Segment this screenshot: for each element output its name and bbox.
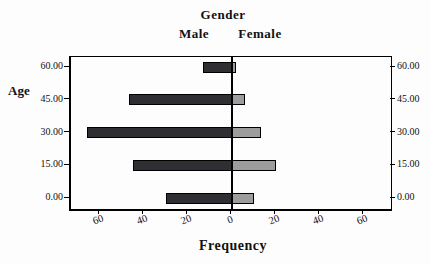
y-tick-label-left: 60.00 bbox=[23, 60, 63, 72]
chart-title: Gender bbox=[173, 7, 273, 23]
x-tick-label: 0 bbox=[216, 210, 244, 229]
y-tickmark-right bbox=[390, 131, 395, 132]
y-tickmark-right bbox=[390, 66, 395, 67]
male-bar bbox=[203, 62, 232, 73]
female-bar bbox=[232, 94, 245, 105]
y-tick-label-right: 0.00 bbox=[397, 191, 415, 203]
y-tickmark-left bbox=[64, 98, 69, 99]
y-tick-label-left: 0.00 bbox=[23, 191, 63, 203]
y-tick-label-right: 15.00 bbox=[397, 158, 420, 170]
x-tick-label: 20 bbox=[260, 210, 288, 229]
population-pyramid-chart: Gender Male Female Age Frequency 0.000.0… bbox=[0, 0, 430, 264]
y-tickmark-left bbox=[64, 131, 69, 132]
female-bar bbox=[232, 193, 254, 204]
x-tick-label: 60 bbox=[84, 210, 112, 229]
y-tickmark-left bbox=[64, 197, 69, 198]
plot-area bbox=[69, 56, 392, 211]
female-series-label: Female bbox=[220, 26, 300, 42]
y-tickmark-right bbox=[390, 98, 395, 99]
female-bar bbox=[232, 160, 276, 171]
y-tickmark-left bbox=[64, 66, 69, 67]
y-tick-label-left: 15.00 bbox=[23, 158, 63, 170]
y-tickmark-right bbox=[390, 197, 395, 198]
y-tick-label-right: 45.00 bbox=[397, 93, 420, 105]
x-axis-title: Frequency bbox=[163, 238, 303, 254]
center-baseline bbox=[231, 57, 233, 209]
male-bar bbox=[166, 193, 232, 204]
male-bar bbox=[87, 127, 232, 138]
y-tick-label-right: 60.00 bbox=[397, 60, 420, 72]
y-tick-label-left: 30.00 bbox=[23, 126, 63, 138]
male-bar bbox=[129, 94, 232, 105]
y-tickmark-left bbox=[64, 164, 69, 165]
female-bar bbox=[232, 127, 261, 138]
x-tick-label: 20 bbox=[172, 210, 200, 229]
male-bar bbox=[133, 160, 232, 171]
y-tick-label-left: 45.00 bbox=[23, 93, 63, 105]
y-tickmark-right bbox=[390, 164, 395, 165]
x-tick-label: 40 bbox=[304, 210, 332, 229]
x-tick-label: 60 bbox=[348, 210, 376, 229]
x-tick-label: 40 bbox=[128, 210, 156, 229]
y-tick-label-right: 30.00 bbox=[397, 126, 420, 138]
